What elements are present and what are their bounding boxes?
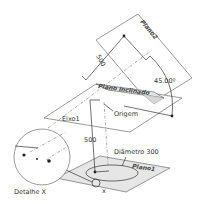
dim-upper-label: 500 bbox=[94, 53, 107, 68]
detail-x-circle bbox=[14, 129, 70, 185]
dim-lower-label: 500 bbox=[84, 136, 96, 144]
reference-geometry-diagram: Plano2 Plano inclinado Plano1 500 45.00º… bbox=[0, 0, 205, 204]
x-marker-label: x bbox=[102, 187, 106, 195]
detail-point-1 bbox=[22, 153, 25, 156]
detail-point-2 bbox=[36, 158, 38, 160]
eixo1-label: Eixo1 bbox=[62, 115, 80, 123]
angle-end-point bbox=[171, 115, 174, 118]
plano1-plane bbox=[56, 156, 170, 192]
angle-label: 45.00º bbox=[154, 77, 176, 85]
diameter-label: Diâmetro 300 bbox=[114, 148, 159, 156]
origem-label: Origem bbox=[114, 110, 138, 118]
detalhe-x-label: Detalhe X bbox=[14, 188, 47, 196]
plano2-point bbox=[123, 35, 126, 38]
dim-upper-tick2 bbox=[82, 76, 86, 80]
detail-point-3 bbox=[47, 159, 51, 163]
